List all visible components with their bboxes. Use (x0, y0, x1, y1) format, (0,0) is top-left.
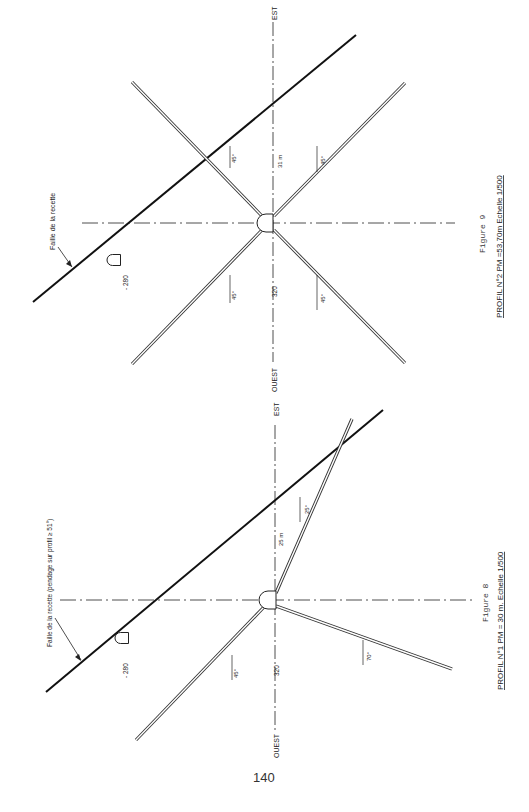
fig9-caption: PROFIL N°2 PM =53,70m Echelle 1/500 (495, 175, 504, 318)
fig9-level-label: 320 (271, 286, 278, 297)
fig8-caption: PROFIL N°1 PM = 30 m. Echelle 1/500 (496, 551, 505, 690)
fig8-angle-25: 25° (304, 504, 310, 514)
fig9-fault-label: Faille de la recette (49, 193, 56, 250)
fig9-distance-label: 31 m (277, 155, 283, 168)
fig9-angle-3: 45° (320, 155, 326, 165)
fig9-caption-title: Figure 9 (478, 214, 487, 253)
page-number: 140 (253, 770, 275, 785)
drawing-labels: Faille de la recette - 280 EST OUEST 320… (0, 0, 529, 812)
fig8-axis-west: OUEST (273, 733, 280, 758)
fig8-level-label: 320 (273, 665, 280, 676)
fig8-fault-label: Faille de la recette (pendage sur profil… (46, 519, 54, 647)
fig8-caption-title: Figure 8 (481, 583, 490, 622)
fig8-angle-45: 45° (233, 668, 239, 678)
fig9-axis-east: EST (271, 6, 278, 20)
fig9-angle-1: 45° (231, 153, 237, 163)
fig8-angle-70: 70° (366, 651, 372, 661)
fig9-old-gallery-level: - 280 (122, 275, 129, 290)
fig9-angle-4: 45° (320, 293, 326, 303)
fig8-axis-east: EST (273, 402, 280, 416)
fig9-angle-2: 45° (231, 290, 237, 300)
fig8-distance-label: 25 m (278, 533, 284, 546)
fig9-axis-west: OUEST (271, 367, 278, 392)
fig8-old-gallery-level: - 280 (122, 663, 129, 678)
